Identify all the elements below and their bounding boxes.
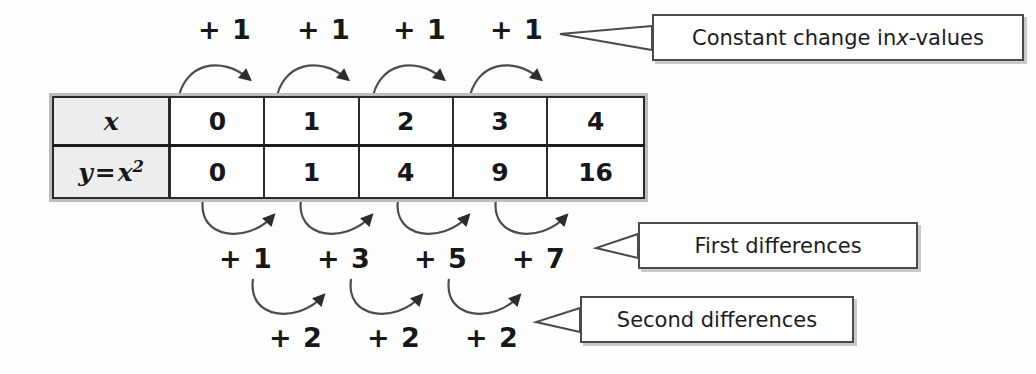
cell-y-1: 1 bbox=[264, 146, 358, 199]
callout-second-differences-text: Second differences bbox=[617, 308, 817, 332]
cell-y-0: 0 bbox=[170, 146, 265, 199]
cell-x-3: 3 bbox=[453, 97, 547, 146]
table-row-x: x 0 1 2 3 4 bbox=[53, 97, 644, 146]
row-header-y-exponent: 2 bbox=[133, 157, 144, 176]
cell-y-3: 9 bbox=[453, 146, 547, 199]
second-difference-label-1: + 2 bbox=[269, 322, 323, 353]
callout-second-differences: Second differences bbox=[580, 296, 854, 343]
first-difference-label-4: + 7 bbox=[512, 243, 566, 274]
table-row-y: y=x2 0 1 4 9 16 bbox=[53, 146, 644, 199]
callout-tail-first-differences bbox=[596, 234, 638, 258]
callout-constant-change: Constant change in x-values bbox=[652, 14, 1024, 61]
first-difference-label-3: + 5 bbox=[414, 243, 468, 274]
row-header-y-base: x bbox=[118, 158, 133, 187]
first-difference-arcs bbox=[203, 199, 565, 234]
callout-tail-constant-change bbox=[560, 26, 652, 50]
callout-constant-change-text-before: Constant change in bbox=[692, 26, 896, 50]
second-difference-arcs bbox=[253, 279, 518, 314]
row-header-x: x bbox=[53, 97, 170, 146]
callout-first-differences: First differences bbox=[638, 222, 918, 269]
row-header-y-equals: = bbox=[93, 158, 118, 187]
finite-differences-figure: + 1 + 1 + 1 + 1 x 0 1 2 3 4 y=x2 0 1 4 9… bbox=[0, 0, 1036, 374]
cell-x-4: 4 bbox=[547, 97, 644, 146]
cell-x-0: 0 bbox=[170, 97, 265, 146]
callout-constant-change-text-after: -values bbox=[909, 26, 984, 50]
cell-x-2: 2 bbox=[359, 97, 453, 146]
row-header-y-lhs: y bbox=[78, 158, 93, 187]
x-difference-label-2: + 1 bbox=[297, 14, 351, 45]
second-difference-label-3: + 2 bbox=[465, 322, 519, 353]
value-table: x 0 1 2 3 4 y=x2 0 1 4 9 16 bbox=[52, 96, 645, 199]
cell-y-2: 4 bbox=[359, 146, 453, 199]
first-difference-label-2: + 3 bbox=[317, 243, 371, 274]
cell-x-1: 1 bbox=[264, 97, 358, 146]
cell-y-4: 16 bbox=[547, 146, 644, 199]
x-difference-label-1: + 1 bbox=[198, 14, 252, 45]
x-difference-label-3: + 1 bbox=[393, 14, 447, 45]
callout-first-differences-text: First differences bbox=[694, 234, 861, 258]
callout-tail-second-differences bbox=[536, 308, 580, 332]
row-header-y: y=x2 bbox=[53, 146, 170, 199]
callout-constant-change-text-italic: x bbox=[896, 26, 908, 50]
x-difference-label-4: + 1 bbox=[490, 14, 544, 45]
second-difference-label-2: + 2 bbox=[367, 322, 421, 353]
first-difference-label-1: + 1 bbox=[219, 243, 273, 274]
